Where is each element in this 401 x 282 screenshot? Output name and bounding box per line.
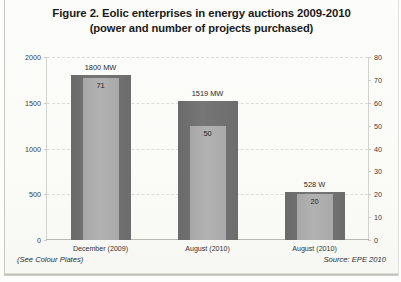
bar-group: 1800 MW71December (2009): [71, 57, 131, 240]
y-axis-right-tick-label: 20: [374, 190, 382, 199]
y-axis-left-tick-label: 1500: [25, 98, 41, 107]
y-axis-left-tick-mark: [44, 57, 47, 58]
y-axis-right-tick-label: 70: [374, 75, 382, 84]
y-axis-right-tick-mark: [368, 194, 371, 195]
bar-group: 528 W20August (2010): [285, 57, 345, 240]
y-axis-right-tick-label: 80: [374, 53, 382, 62]
figure-title-line-1: Figure 2. Eolic enterprises in energy au…: [5, 6, 398, 21]
figure-frame: Figure 2. Eolic enterprises in energy au…: [4, 0, 399, 276]
y-axis-left-tick-label: 0: [37, 236, 41, 245]
y-axis-left-tick-label: 500: [29, 190, 41, 199]
y-axis-right-tick-mark: [368, 126, 371, 127]
y-axis-left-tick-mark: [44, 240, 47, 241]
y-axis-left-tick-label: 1000: [25, 144, 41, 153]
y-axis-right-tick-mark: [368, 57, 371, 58]
x-axis-category-label: August (2010): [185, 245, 230, 253]
x-axis-category-label: August (2010): [292, 245, 337, 253]
bar-group: 1519 MW50August (2010): [178, 57, 238, 240]
y-axis-right-tick-mark: [368, 103, 371, 104]
bar-count-label: 50: [203, 129, 211, 138]
bar-project-count: [190, 126, 226, 240]
bar-power-label: 1800 MW: [85, 63, 117, 72]
x-axis-category-label: December (2009): [73, 245, 128, 253]
bar-power-label: 528 W: [304, 180, 325, 189]
y-axis-right-tick-mark: [368, 80, 371, 81]
y-axis-left-tick-mark: [44, 194, 47, 195]
y-axis-left-tick-mark: [44, 103, 47, 104]
y-axis-left-tick-label: 2000: [25, 53, 41, 62]
y-axis-right-tick-label: 0: [374, 236, 378, 245]
page-bottom-rule: [5, 273, 398, 276]
y-axis-right-tick-mark: [368, 217, 371, 218]
chart-plot-area: 0500100015002000 01020304050607080 1800 …: [47, 57, 368, 240]
bar-count-label: 20: [310, 197, 318, 206]
y-axis-right-tick-label: 40: [374, 144, 382, 153]
y-axis-right-tick-label: 60: [374, 98, 382, 107]
y-axis-left-tick-mark: [44, 149, 47, 150]
y-axis-right-tick-mark: [368, 149, 371, 150]
y-axis-right-tick-mark: [368, 240, 371, 241]
y-axis-right-tick-label: 50: [374, 121, 382, 130]
bar-count-label: 71: [96, 81, 104, 90]
y-axis-right-tick-label: 30: [374, 167, 382, 176]
y-axis-right-tick-label: 10: [374, 213, 382, 222]
bar-power-label: 1519 MW: [192, 89, 224, 98]
y-axis-right-tick-mark: [368, 171, 371, 172]
footer-source: Source: EPE 2010: [324, 255, 386, 264]
bar-project-count: [83, 78, 119, 240]
figure-title: Figure 2. Eolic enterprises in energy au…: [5, 6, 398, 36]
figure-title-line-2: (power and number of projects purchased): [5, 21, 398, 36]
footer-note: (See Colour Plates): [17, 255, 83, 264]
